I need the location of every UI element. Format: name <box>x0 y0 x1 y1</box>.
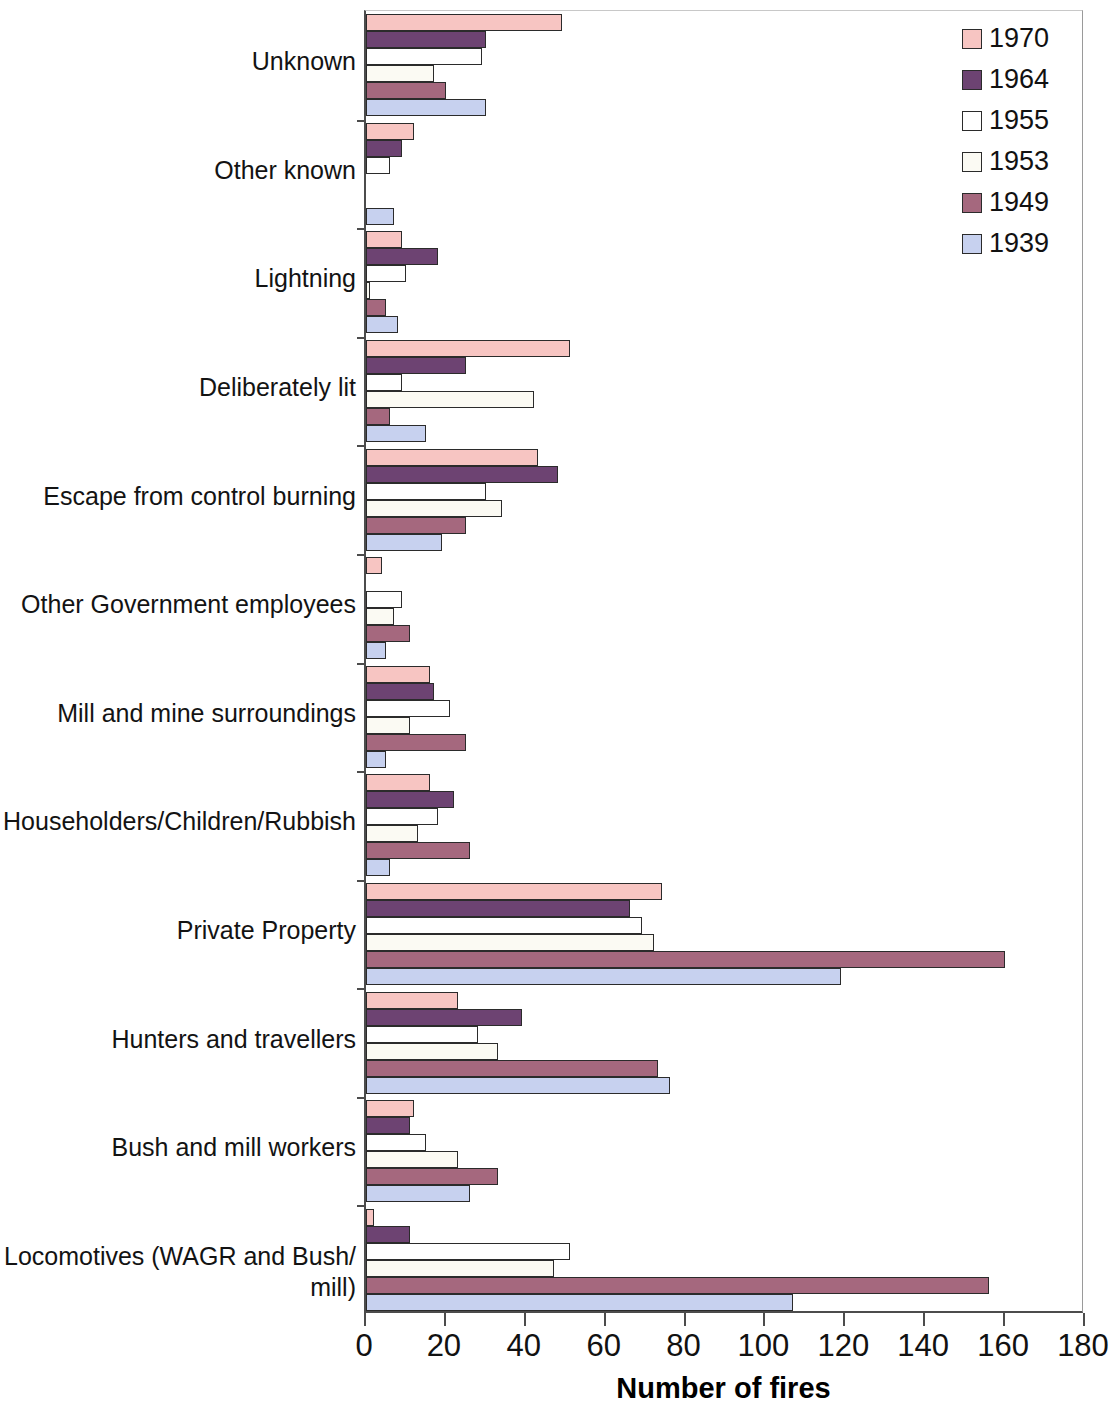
bar-1939-10 <box>366 1185 470 1202</box>
category-group <box>366 880 1082 989</box>
category-label: Hunters and travellers <box>0 1024 356 1055</box>
legend-item-1970[interactable]: 1970 <box>962 18 1082 59</box>
bar-1955-11 <box>366 1243 570 1260</box>
category-group <box>366 988 1082 1097</box>
x-axis-tick-label: 140 <box>897 1328 949 1364</box>
bar-1949-9 <box>366 1060 658 1077</box>
category-group <box>366 771 1082 880</box>
y-axis-tick <box>357 880 366 882</box>
bar-1939-8 <box>366 968 841 985</box>
x-axis-tick <box>923 1313 925 1326</box>
y-axis-tick <box>357 771 366 773</box>
legend-item-1964[interactable]: 1964 <box>962 59 1082 100</box>
bar-1964-4 <box>366 466 558 483</box>
bar-1953-3 <box>366 391 534 408</box>
bar-1964-2 <box>366 248 438 265</box>
category-group <box>366 554 1082 663</box>
category-label: Mill and mine surroundings <box>0 698 356 729</box>
x-axis-tick-label: 80 <box>666 1328 700 1364</box>
category-label: Lightning <box>0 263 356 294</box>
bar-1939-4 <box>366 534 442 551</box>
bar-1939-2 <box>366 316 398 333</box>
bar-1970-0 <box>366 14 562 31</box>
bar-1970-3 <box>366 340 570 357</box>
bar-1953-10 <box>366 1151 458 1168</box>
bar-1953-11 <box>366 1260 554 1277</box>
y-axis-tick <box>357 1097 366 1099</box>
category-group <box>366 663 1082 772</box>
bar-1955-1 <box>366 157 390 174</box>
bar-1964-10 <box>366 1117 410 1134</box>
bar-1949-10 <box>366 1168 498 1185</box>
bar-1939-7 <box>366 859 390 876</box>
bar-1949-6 <box>366 734 466 751</box>
y-axis-tick <box>357 337 366 339</box>
category-label: Householders/Children/Rubbish <box>0 806 356 837</box>
legend-label: 1964 <box>989 66 1049 93</box>
bar-1970-4 <box>366 449 538 466</box>
bar-1964-6 <box>366 683 434 700</box>
legend-swatch-icon <box>962 152 982 172</box>
x-axis-tick <box>843 1313 845 1326</box>
x-axis-ticks <box>364 1313 1083 1327</box>
legend-item-1949[interactable]: 1949 <box>962 182 1082 223</box>
y-axis-tick <box>357 228 366 230</box>
bar-1953-2 <box>366 282 370 299</box>
x-axis-tick-label: 20 <box>427 1328 461 1364</box>
bar-1939-9 <box>366 1077 670 1094</box>
bar-1953-0 <box>366 65 434 82</box>
legend-item-1939[interactable]: 1939 <box>962 223 1082 264</box>
x-axis-tick-label: 180 <box>1057 1328 1109 1364</box>
bar-1970-8 <box>366 883 662 900</box>
bar-1955-6 <box>366 700 450 717</box>
bar-1939-1 <box>366 208 394 225</box>
bar-1964-8 <box>366 900 630 917</box>
category-label: Deliberately lit <box>0 372 356 403</box>
category-label: Bush and mill workers <box>0 1132 356 1163</box>
bar-1953-8 <box>366 934 654 951</box>
x-axis-tick-label: 60 <box>586 1328 620 1364</box>
bar-1964-3 <box>366 357 466 374</box>
y-axis-tick <box>357 120 366 122</box>
y-axis-tick <box>357 554 366 556</box>
bar-1949-8 <box>366 951 1005 968</box>
bar-1953-6 <box>366 717 410 734</box>
legend-swatch-icon <box>962 111 982 131</box>
legend-swatch-icon <box>962 234 982 254</box>
bar-1970-1 <box>366 123 414 140</box>
legend-item-1953[interactable]: 1953 <box>962 141 1082 182</box>
x-axis-title: Number of fires <box>364 1372 1083 1405</box>
category-label: Private Property <box>0 915 356 946</box>
bar-1949-5 <box>366 625 410 642</box>
bar-1955-7 <box>366 808 438 825</box>
bar-1964-11 <box>366 1226 410 1243</box>
bar-1953-7 <box>366 825 418 842</box>
legend-item-1955[interactable]: 1955 <box>962 100 1082 141</box>
bar-1953-5 <box>366 608 394 625</box>
category-label: Other Government employees <box>0 589 356 620</box>
legend-label: 1953 <box>989 148 1049 175</box>
bar-1939-3 <box>366 425 426 442</box>
bar-1970-5 <box>366 557 382 574</box>
bar-1955-4 <box>366 483 486 500</box>
legend-swatch-icon <box>962 70 982 90</box>
legend-label: 1939 <box>989 230 1049 257</box>
bar-1953-4 <box>366 500 502 517</box>
legend: 197019641955195319491939 <box>962 18 1082 264</box>
bar-1949-0 <box>366 82 446 99</box>
bar-1955-3 <box>366 374 402 391</box>
category-group <box>366 1205 1082 1314</box>
x-axis-tick <box>1003 1313 1005 1326</box>
x-axis-tick <box>604 1313 606 1326</box>
bar-1964-1 <box>366 140 402 157</box>
bar-1970-10 <box>366 1100 414 1117</box>
legend-swatch-icon <box>962 193 982 213</box>
x-axis-tick <box>1083 1313 1085 1326</box>
bar-1949-7 <box>366 842 470 859</box>
bar-1949-4 <box>366 517 466 534</box>
bar-1970-9 <box>366 992 458 1009</box>
bar-1939-6 <box>366 751 386 768</box>
x-axis-tick <box>364 1313 366 1326</box>
bar-1955-8 <box>366 917 642 934</box>
category-label: Locomotives (WAGR and Bush/ mill) <box>0 1241 356 1303</box>
